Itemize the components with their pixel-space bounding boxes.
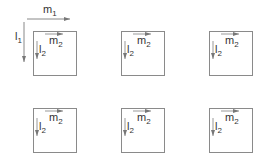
inner-vertical-label: l2 bbox=[127, 121, 134, 132]
block-cell: m2 l2 bbox=[33, 31, 77, 76]
inner-horizontal-label: m2 bbox=[225, 112, 239, 123]
inner-horizontal-label: m2 bbox=[137, 35, 151, 46]
outer-vertical-label: l1 bbox=[15, 31, 22, 42]
inner-horizontal-label: m2 bbox=[49, 112, 63, 123]
block-cell: m2 l2 bbox=[209, 108, 253, 153]
block-cell: m2 l2 bbox=[209, 31, 253, 76]
inner-horizontal-label: m2 bbox=[137, 112, 151, 123]
block-cell: m2 l2 bbox=[33, 108, 77, 153]
inner-horizontal-label: m2 bbox=[49, 35, 63, 46]
inner-vertical-label: l2 bbox=[39, 44, 46, 55]
block-cell: m2 l2 bbox=[121, 31, 165, 76]
block-index-diagram: m1 l1 m2 l2 m2 l2 m2 l2 m2 l2 m2 l2 m2 l… bbox=[0, 0, 267, 155]
inner-vertical-label: l2 bbox=[215, 44, 222, 55]
inner-vertical-label: l2 bbox=[127, 44, 134, 55]
inner-vertical-label: l2 bbox=[215, 121, 222, 132]
outer-horizontal-label: m1 bbox=[43, 4, 57, 15]
block-cell: m2 l2 bbox=[121, 108, 165, 153]
inner-vertical-label: l2 bbox=[39, 121, 46, 132]
inner-horizontal-label: m2 bbox=[225, 35, 239, 46]
